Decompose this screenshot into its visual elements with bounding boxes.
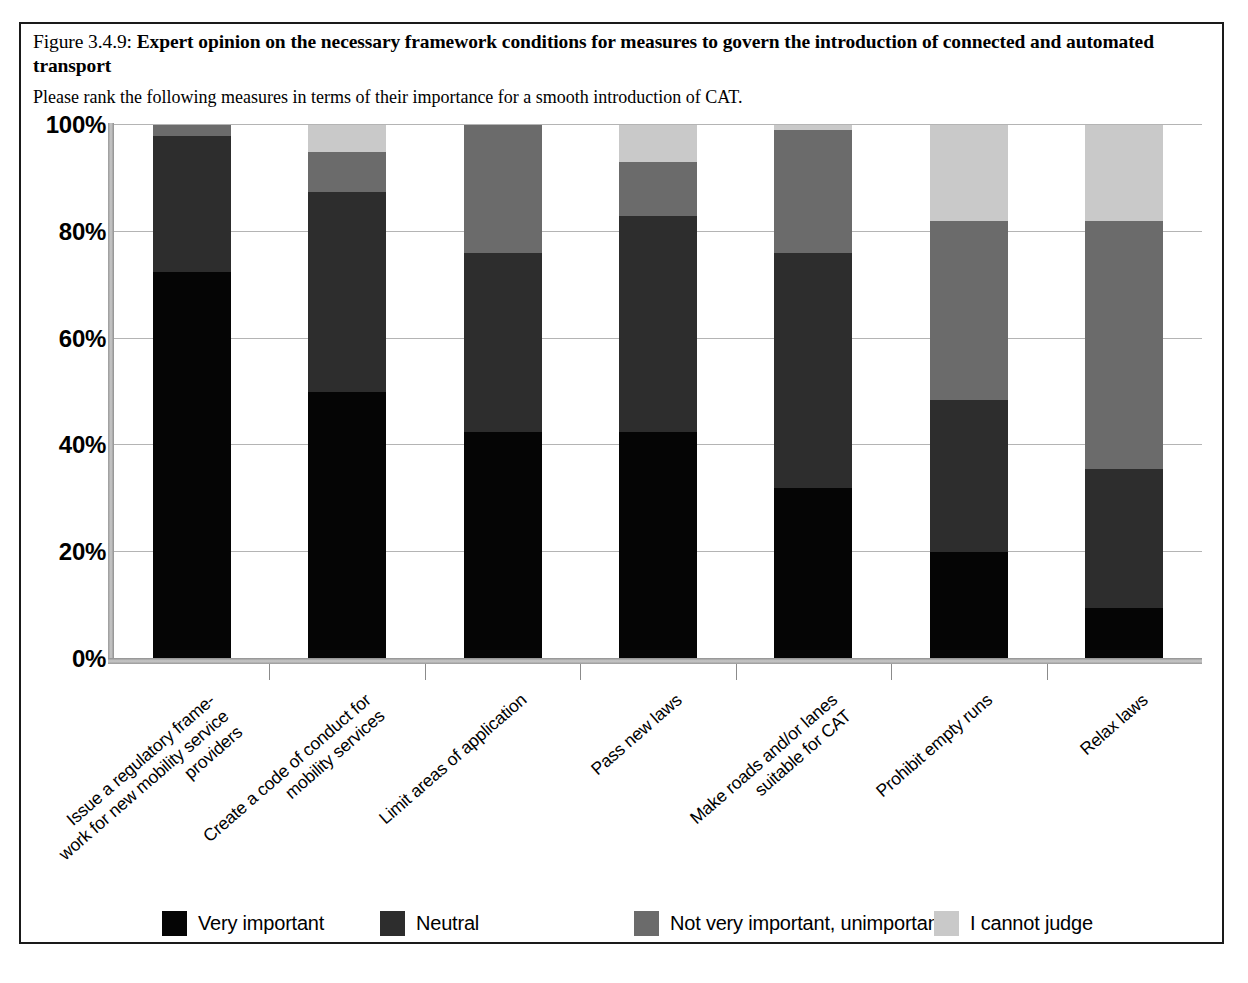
legend-label: Neutral xyxy=(416,912,479,935)
x-axis-tick xyxy=(891,664,892,680)
bar-column[interactable] xyxy=(619,125,697,659)
y-axis-tick-80pct: 80% xyxy=(22,218,106,246)
bar-segment[interactable] xyxy=(774,488,852,659)
bar-segment[interactable] xyxy=(153,136,231,272)
bar-column[interactable] xyxy=(308,125,386,659)
bar-segment[interactable] xyxy=(930,552,1008,659)
bar-column[interactable] xyxy=(1085,125,1163,659)
x-axis-tick xyxy=(425,664,426,680)
bar-segment[interactable] xyxy=(308,192,386,392)
x-axis-tick xyxy=(736,664,737,680)
legend-label: I cannot judge xyxy=(970,912,1093,935)
bar-segment[interactable] xyxy=(930,221,1008,400)
x-axis-labels: Issue a regulatory frame- work for new m… xyxy=(21,664,1226,894)
bar-segment[interactable] xyxy=(1085,608,1163,659)
chart-legend: Very importantNeutralNot very important,… xyxy=(21,908,1226,942)
bar-segment[interactable] xyxy=(619,216,697,432)
bar-segment[interactable] xyxy=(464,253,542,432)
bar-segment[interactable] xyxy=(930,400,1008,552)
x-axis-tick xyxy=(580,664,581,680)
x-axis-label: Pass new laws xyxy=(587,690,686,780)
bar-column[interactable] xyxy=(153,125,231,659)
x-axis-tick xyxy=(269,664,270,680)
bar-column[interactable] xyxy=(930,125,1008,659)
bar-column[interactable] xyxy=(464,125,542,659)
plot-area xyxy=(114,125,1202,659)
legend-swatch xyxy=(162,911,187,936)
legend-swatch xyxy=(934,911,959,936)
bar-segment[interactable] xyxy=(308,125,386,152)
figure-frame: Figure 3.4.9: Expert opinion on the nece… xyxy=(19,22,1224,944)
x-axis-label: Relax laws xyxy=(1076,690,1152,760)
bar-segment[interactable] xyxy=(774,130,852,253)
bar-segment[interactable] xyxy=(619,432,697,659)
x-axis-label: Prohibit empty runs xyxy=(872,690,997,802)
bar-segment[interactable] xyxy=(308,392,386,659)
x-axis-label: Issue a regulatory frame- work for new m… xyxy=(41,690,247,880)
y-axis-tick-100pct: 100% xyxy=(22,111,106,139)
legend-label: Very important xyxy=(198,912,324,935)
bar-segment[interactable] xyxy=(464,432,542,659)
y-axis-tick-20pct: 20% xyxy=(22,538,106,566)
bar-segment[interactable] xyxy=(464,125,542,253)
bar-segment[interactable] xyxy=(1085,125,1163,221)
bar-segment[interactable] xyxy=(153,125,231,136)
bar-segment[interactable] xyxy=(930,125,1008,221)
bar-segment[interactable] xyxy=(619,162,697,215)
chart-plot-wrapper: 0%20%40%60%80%100% Issue a regulatory fr… xyxy=(21,24,1226,942)
legend-swatch xyxy=(380,911,405,936)
y-axis-tick-40pct: 40% xyxy=(22,431,106,459)
x-axis-tick xyxy=(1047,664,1048,680)
legend-item[interactable]: Neutral xyxy=(380,908,479,938)
bar-segment[interactable] xyxy=(308,152,386,192)
legend-swatch xyxy=(634,911,659,936)
bar-segment[interactable] xyxy=(1085,469,1163,608)
y-axis-labels: 0%20%40%60%80%100% xyxy=(18,24,106,664)
legend-item[interactable]: Very important xyxy=(162,908,324,938)
bar-segment[interactable] xyxy=(153,272,231,659)
bar-segment[interactable] xyxy=(1085,221,1163,469)
bar-segment[interactable] xyxy=(774,253,852,488)
bar-column[interactable] xyxy=(774,125,852,659)
x-axis-label: Make roads and/or lanes suitable for CAT xyxy=(686,690,855,845)
y-axis-line xyxy=(108,123,114,662)
bar-segment[interactable] xyxy=(619,125,697,162)
legend-label: Not very important, unimportant xyxy=(670,912,944,935)
legend-item[interactable]: Not very important, unimportant xyxy=(634,908,944,938)
y-axis-tick-60pct: 60% xyxy=(22,325,106,353)
legend-item[interactable]: I cannot judge xyxy=(934,908,1093,938)
x-axis-label: Limit areas of application xyxy=(375,690,531,829)
